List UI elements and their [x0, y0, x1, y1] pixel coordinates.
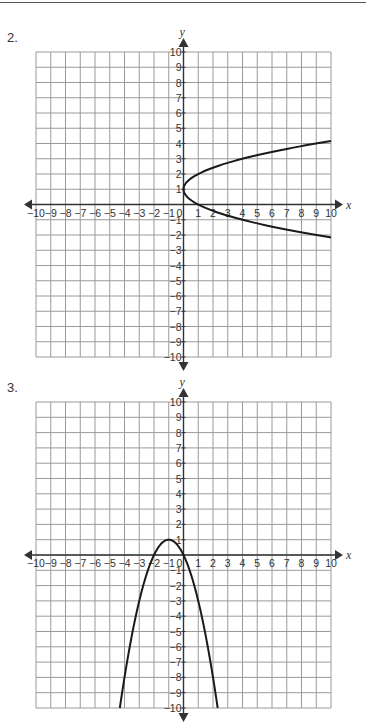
y-tick-label: 2 [176, 168, 182, 180]
x-tick-label: −9 [45, 207, 57, 219]
x-tick-label: −5 [104, 207, 116, 219]
y-axis-down-arrow-icon [179, 713, 189, 722]
x-axis-label: x [345, 548, 352, 562]
graph-problem-2: xy−10−9−8−7−6−5−4−3−2−1012345678910−10−9… [0, 0, 366, 372]
x-tick-label: 6 [269, 557, 275, 569]
y-tick-label: −7 [170, 656, 182, 668]
x-tick-label: 5 [254, 207, 260, 219]
y-tick-label: 5 [176, 473, 182, 485]
y-tick-label: −7 [170, 305, 182, 317]
x-tick-label: 8 [299, 557, 305, 569]
x-tick-label: 5 [254, 557, 260, 569]
y-tick-label: −8 [170, 671, 182, 683]
x-tick-label: −3 [133, 557, 145, 569]
y-tick-label: 1 [176, 183, 182, 195]
x-tick-label: 9 [313, 207, 319, 219]
x-tick-label: −4 [119, 557, 131, 569]
y-tick-label: 4 [176, 488, 182, 500]
x-tick-label: 10 [325, 207, 337, 219]
x-tick-label: −7 [74, 557, 86, 569]
x-tick-label: 2 [210, 557, 216, 569]
y-tick-label: 9 [176, 411, 182, 423]
y-axis-label: y [179, 375, 186, 389]
x-tick-label: 8 [299, 207, 305, 219]
y-tick-label: −4 [170, 610, 182, 622]
y-tick-label: −10 [164, 702, 182, 714]
x-tick-label: −8 [60, 557, 72, 569]
x-tick-label: −6 [89, 557, 101, 569]
y-tick-label: 3 [176, 153, 182, 165]
x-tick-label: 7 [284, 557, 290, 569]
graph-problem-3: xy−10−9−8−7−6−5−4−3−2−1012345678910−10−9… [0, 350, 366, 723]
y-tick-label: −1 [170, 214, 182, 226]
x-tick-label: −5 [104, 557, 116, 569]
x-tick-label: 7 [284, 207, 290, 219]
y-tick-label: −9 [170, 687, 182, 699]
y-tick-label: 7 [176, 92, 182, 104]
x-tick-label: 1 [195, 557, 201, 569]
y-tick-label: 8 [176, 427, 182, 439]
y-tick-label: −3 [170, 595, 182, 607]
x-tick-label: −2 [148, 207, 160, 219]
y-tick-label: 10 [170, 396, 182, 408]
x-tick-label: 1 [195, 207, 201, 219]
x-tick-label: −4 [119, 207, 131, 219]
y-tick-label: −6 [170, 641, 182, 653]
y-tick-label: 7 [176, 442, 182, 454]
y-tick-label: 3 [176, 503, 182, 515]
x-tick-label: −10 [27, 207, 45, 219]
y-tick-label: −5 [170, 275, 182, 287]
y-tick-label: 8 [176, 77, 182, 89]
y-tick-label: 6 [176, 107, 182, 119]
y-tick-label: 5 [176, 122, 182, 134]
x-axis-label: x [345, 198, 352, 212]
x-tick-label: 3 [225, 557, 231, 569]
y-tick-label: 10 [170, 46, 182, 58]
x-tick-label: −8 [60, 207, 72, 219]
x-tick-label: −10 [27, 557, 45, 569]
x-tick-label: −7 [74, 207, 86, 219]
y-tick-label: −6 [170, 290, 182, 302]
x-tick-label: 6 [269, 207, 275, 219]
x-tick-label: 10 [325, 557, 337, 569]
y-axis-label: y [179, 25, 186, 39]
y-tick-label: −8 [170, 321, 182, 333]
y-tick-label: 4 [176, 138, 182, 150]
x-tick-label: 4 [240, 207, 246, 219]
x-tick-label: 9 [313, 557, 319, 569]
y-tick-label: −5 [170, 626, 182, 638]
x-tick-label: 4 [240, 557, 246, 569]
axes: xy [24, 375, 352, 722]
y-tick-label: 2 [176, 518, 182, 530]
y-tick-label: −3 [170, 244, 182, 256]
x-tick-label: −3 [133, 207, 145, 219]
y-tick-label: −4 [170, 260, 182, 272]
y-tick-label: −9 [170, 336, 182, 348]
x-tick-label: −6 [89, 207, 101, 219]
y-tick-label: −2 [170, 580, 182, 592]
y-tick-label: −1 [170, 564, 182, 576]
y-tick-label: 9 [176, 61, 182, 73]
x-tick-label: −9 [45, 557, 57, 569]
y-tick-label: 6 [176, 457, 182, 469]
y-tick-label: −2 [170, 229, 182, 241]
